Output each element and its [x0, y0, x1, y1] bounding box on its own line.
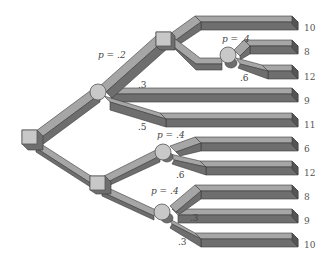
chance-node-lower-2 — [154, 204, 173, 223]
decision-node-lower — [90, 176, 111, 194]
prob-label-lower2-3b: .3 — [178, 237, 187, 247]
prob-label-upper-5: .5 — [138, 122, 147, 132]
payoff-10: 10 — [304, 240, 316, 250]
prob-label-lower2-4: p = .4 — [151, 186, 179, 196]
payoff-8: 8 — [304, 192, 310, 202]
prob-label-upper: p = .2 — [98, 50, 126, 60]
terminal-branches — [105, 16, 298, 247]
payoff-5: 11 — [304, 120, 315, 130]
payoff-9: 9 — [304, 216, 310, 226]
payoff-7: 12 — [304, 168, 315, 178]
chance-node-upper — [90, 84, 106, 100]
payoff-3: 12 — [304, 72, 315, 82]
prob-label-upper-3: .3 — [138, 80, 147, 90]
prob-label-lower1-6: .6 — [176, 170, 185, 180]
prob-label-lower1-4: p = .4 — [157, 130, 185, 140]
payoff-2: 8 — [304, 47, 310, 57]
payoff-1: 10 — [304, 23, 316, 33]
chance-node-upper-right — [220, 47, 237, 68]
terminal-branch-1 — [195, 16, 298, 30]
prob-label-upper-right-4: p = .4 — [222, 34, 250, 44]
decision-node-upper — [156, 32, 175, 50]
prob-label-lower2-3a: .3 — [190, 213, 199, 223]
terminal-branch-8 — [195, 185, 298, 199]
terminal-branch-5 — [160, 113, 298, 127]
payoff-6: 6 — [304, 144, 310, 154]
payoff-4: 9 — [304, 96, 310, 106]
terminal-branch-7 — [200, 161, 298, 175]
terminal-branch-4 — [105, 88, 298, 102]
terminal-branch-6 — [195, 137, 298, 151]
terminal-branch-2 — [244, 40, 298, 54]
prob-label-upper-right-6: .6 — [240, 73, 249, 83]
decision-tree-diagram: p = .2 .3 .5 p = .4 .6 p = .4 .6 p = .4 … — [0, 0, 327, 266]
terminal-branch-10 — [195, 233, 298, 247]
root-decision-node — [22, 130, 43, 150]
